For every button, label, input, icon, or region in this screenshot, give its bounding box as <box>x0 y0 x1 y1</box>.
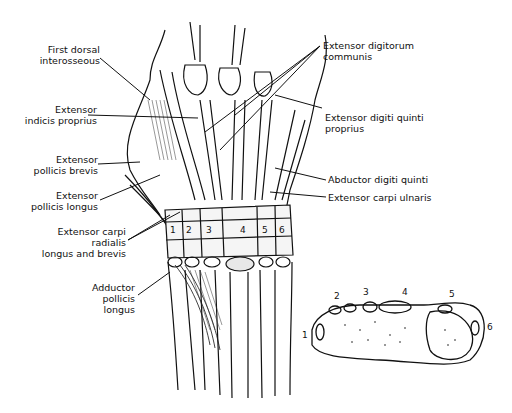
compartment-number: 6 <box>279 225 285 235</box>
label-line: Extensor <box>20 154 98 165</box>
label-line: pollicis longus <box>20 201 98 212</box>
compartment-number: 3 <box>206 225 212 235</box>
label-line: Abductor digiti quinti <box>328 174 428 185</box>
label-line: proprius <box>325 123 424 134</box>
cross-section-number: 6 <box>487 322 493 332</box>
compartment-number: 4 <box>240 225 246 235</box>
label-line: Extensor digitorum <box>323 40 414 51</box>
label-extensor-digitorum-communis: Extensor digitorum communis <box>323 40 414 62</box>
label-line: indicis proprius <box>5 115 97 126</box>
cross-section-number: 5 <box>449 289 455 299</box>
compartment-number: 2 <box>186 225 192 235</box>
label-line: Extensor <box>20 190 98 201</box>
label-line: radialis <box>40 237 126 248</box>
label-adductor-pollicis-longus: Adductor pollicis longus <box>70 282 135 315</box>
label-first-dorsal-interosseous: First dorsal interosseous <box>20 44 100 66</box>
label-extensor-carpi-ulnaris: Extensor carpi ulnaris <box>328 192 432 203</box>
label-line: longus and brevis <box>40 248 126 259</box>
label-extensor-carpi-radialis: Extensor carpi radialis longus and brevi… <box>40 226 126 259</box>
label-line: Adductor <box>70 282 135 293</box>
label-line: communis <box>323 51 414 62</box>
label-line: Extensor digiti quinti <box>325 112 424 123</box>
label-line: First dorsal <box>20 44 100 55</box>
label-line: interosseous <box>20 55 100 66</box>
cross-section-number: 4 <box>402 287 408 297</box>
cross-section-number: 1 <box>302 330 308 340</box>
label-extensor-pollicis-brevis: Extensor pollicis brevis <box>20 154 98 176</box>
label-line: Extensor <box>5 104 97 115</box>
label-line: Extensor carpi ulnaris <box>328 192 432 203</box>
compartment-number: 1 <box>170 225 176 235</box>
label-abductor-digiti-quinti: Abductor digiti quinti <box>328 174 428 185</box>
cross-section-number: 3 <box>363 287 369 297</box>
label-extensor-digiti-quinti-proprius: Extensor digiti quinti proprius <box>325 112 424 134</box>
cross-section-number: 2 <box>334 291 340 301</box>
label-line: Extensor carpi <box>40 226 126 237</box>
label-line: pollicis <box>70 293 135 304</box>
compartment-number: 5 <box>262 225 268 235</box>
label-extensor-pollicis-longus: Extensor pollicis longus <box>20 190 98 212</box>
label-line: longus <box>70 304 135 315</box>
label-extensor-indicis-proprius: Extensor indicis proprius <box>5 104 97 126</box>
label-line: pollicis brevis <box>20 165 98 176</box>
